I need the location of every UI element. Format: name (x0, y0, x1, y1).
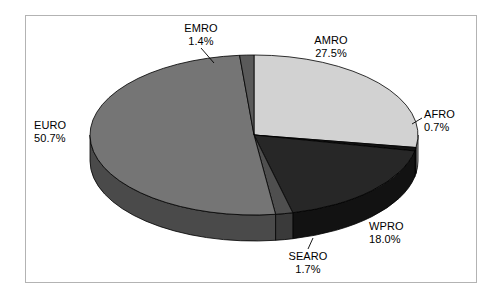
slice-label-euro-percent: 50.7% (34, 132, 100, 145)
slice-label-emro: EMRO 1.4% (167, 22, 235, 47)
slice-label-euro: EURO 50.7% (34, 119, 100, 144)
slice-label-wpro: WPRO 18.0% (369, 220, 435, 245)
slice-label-amro-name: AMRO (296, 34, 366, 47)
slice-label-amro: AMRO 27.5% (296, 34, 366, 59)
slice-label-afro: AFRO 0.7% (424, 108, 484, 133)
slice-label-searo: SEARO 1.7% (272, 250, 344, 275)
slice-label-amro-percent: 27.5% (296, 47, 366, 60)
slice-label-emro-name: EMRO (167, 22, 235, 35)
leader-line-searo (308, 238, 313, 249)
slice-label-wpro-percent: 18.0% (369, 233, 435, 246)
slice-label-emro-percent: 1.4% (167, 35, 235, 48)
slice-label-searo-name: SEARO (272, 250, 344, 263)
slice-label-afro-percent: 0.7% (424, 121, 484, 134)
pie-slice-top-amro (254, 55, 418, 148)
slice-label-wpro-name: WPRO (369, 220, 435, 233)
pie-chart-graphic (0, 0, 498, 300)
slice-label-euro-name: EURO (34, 119, 100, 132)
slice-label-afro-name: AFRO (424, 108, 484, 121)
pie-slice-side-searo (276, 213, 293, 241)
pie-chart-figure: EMRO 1.4% AMRO 27.5% AFRO 0.7% WPRO 18.0… (0, 0, 498, 300)
slice-label-searo-percent: 1.7% (272, 263, 344, 276)
